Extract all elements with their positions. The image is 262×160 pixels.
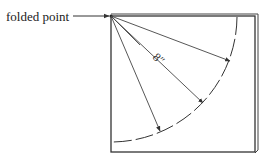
radius-arrow-1 — [111, 16, 230, 61]
dimension-label: 8″ — [150, 50, 168, 68]
dashed-arc — [111, 17, 237, 142]
radius-arrow-4 — [111, 16, 140, 45]
radius-arrow-3 — [111, 16, 160, 131]
folded-square-diagram: 8″ — [0, 0, 262, 160]
